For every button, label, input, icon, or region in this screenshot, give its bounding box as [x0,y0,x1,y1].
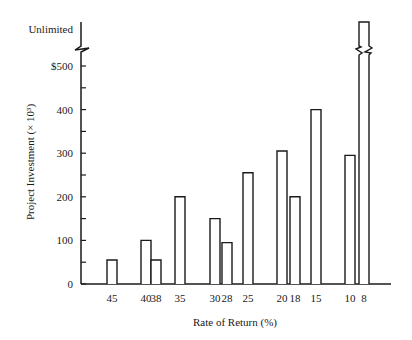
bar-outline [311,110,321,284]
x-tick-label: 15 [311,292,323,304]
x-tick-label: 38 [151,292,163,304]
bar-outline [222,243,232,284]
x-tick-label: 20 [277,292,289,304]
x-axis-title: Rate of Return (%) [193,316,277,329]
bar-outline [290,197,300,284]
bar-38: 38 [151,260,163,304]
x-tick-label: 10 [345,292,357,304]
x-tick-label: 25 [243,292,255,304]
y-tick-label: 200 [57,191,74,203]
y-tick-label: 0 [68,278,74,290]
bar-chart: 0100200300400$500 4540383530282520181510… [0,0,412,340]
x-tick-label: 28 [222,292,234,304]
bar-8: 8 [356,22,372,304]
bar-outline [141,240,151,284]
bar-35: 35 [175,197,187,304]
bar-outline [345,155,355,284]
bar-outline [151,260,161,284]
x-tick-label: 35 [175,292,187,304]
y-break-label: Unlimited [28,23,73,35]
bar-outline [107,260,117,284]
y-tick-label: 300 [57,147,74,159]
bar-10: 10 [345,155,357,304]
x-tick-label: 45 [107,292,119,304]
bar-28: 28 [222,243,234,304]
bars: 45403835302825201815108 [107,22,373,304]
y-tick-label: $500 [51,60,74,72]
bar-45: 45 [107,260,119,304]
bar-18: 18 [290,197,302,304]
bar-30: 30 [210,219,222,304]
bar-outline-unlimited [356,22,372,284]
bar-outline [175,197,185,284]
bar-outline [243,173,253,284]
x-tick-label: 18 [290,292,302,304]
y-axis-title: Project Investment (× 10³) [24,104,37,220]
bar-20: 20 [277,151,289,304]
y-axis: 0100200300400$500 [51,22,89,290]
y-tick-label: 400 [57,104,74,116]
x-tick-label: 30 [210,292,222,304]
bar-15: 15 [311,110,323,304]
bar-outline [277,151,287,284]
bar-outline [210,219,220,284]
y-tick-label: 100 [57,234,74,246]
x-tick-label: 8 [361,292,367,304]
